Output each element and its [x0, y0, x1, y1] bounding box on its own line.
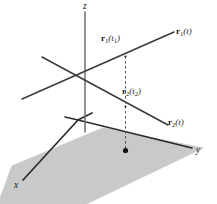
marker-r1-t1	[124, 55, 126, 57]
xy-plane-parallelogram	[0, 128, 203, 204]
curve-r1-label-sub: 1	[180, 30, 183, 37]
point-r1-t1-label-arg-sub: 1	[114, 37, 117, 44]
z-axis-label: z	[83, 2, 87, 12]
curve-r1	[22, 32, 174, 99]
figure-canvas: z y x r1(t) r2(t) r1(t1) r2(t2)	[0, 0, 217, 204]
curve-r2	[42, 57, 168, 125]
x-axis-label: x	[14, 181, 18, 191]
point-r1-t1-label-arg: (t	[108, 33, 114, 43]
y-axis-label: y	[196, 146, 200, 156]
point-r1-t1-label-sub: 1	[105, 37, 108, 44]
curve-r2-label-arg: (t)	[175, 117, 184, 127]
point-r1-t1-label: r1(t1)	[101, 34, 120, 43]
point-r1-t1-label-arg-end: )	[117, 33, 120, 43]
curve-r2-label-sub: 2	[172, 121, 175, 128]
curve-r2-label: r2(t)	[168, 118, 184, 127]
curve-r1-label: r1(t)	[176, 27, 192, 36]
y-axis-stub	[65, 117, 78, 120]
point-r2-t2-label-sub: 2	[126, 90, 129, 97]
point-r2-t2-label-arg-sub: 2	[135, 90, 138, 97]
marker-plane-point	[123, 148, 128, 153]
point-r2-t2-label: r2(t2)	[122, 87, 141, 96]
point-r2-t2-label-arg-end: )	[138, 86, 141, 96]
marker-r2-t2	[124, 105, 126, 107]
point-r2-t2-label-arg: (t	[129, 86, 135, 96]
curve-r1-label-arg: (t)	[183, 26, 192, 36]
